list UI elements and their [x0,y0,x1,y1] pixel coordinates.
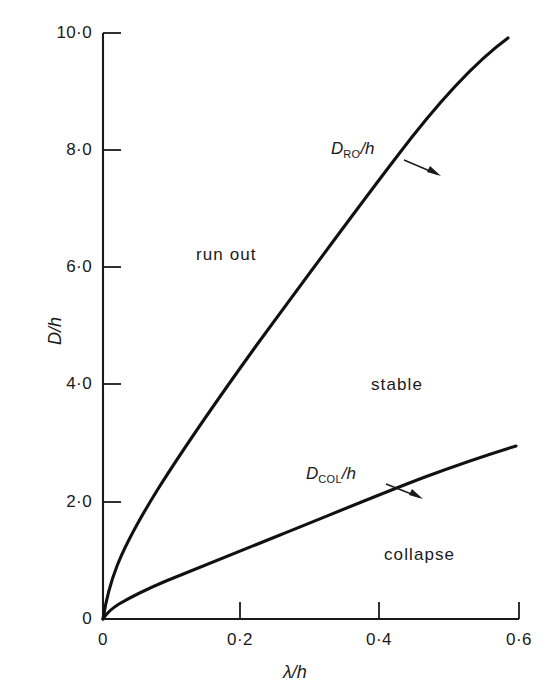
curve-label-d-ro-main: D [331,139,343,158]
leader-d-ro [404,160,441,176]
y-tick-label-8: 8·0 [20,140,92,160]
curve-label-d-ro-sub: RO [343,148,360,160]
y-axis-title: D/h [45,317,66,345]
x-tick-label-04: 0·4 [353,630,405,650]
y-axis-ticks [103,33,121,502]
y-tick-label-0: 0 [20,609,92,629]
curve-label-d-col: DCOL/h [306,464,356,485]
curve-d-ro [103,38,508,619]
x-tick-label-06: 0·6 [493,630,545,650]
curve-label-d-col-sub: COL [318,473,342,485]
y-tick-label-10: 10·0 [20,23,92,43]
curve-label-d-col-main: D [306,464,318,483]
region-label-collapse: collapse [384,545,455,565]
x-tick-label-02: 0·2 [214,630,266,650]
curve-label-d-ro: DRO/h [331,139,375,160]
region-label-run-out: run out [196,245,257,265]
region-label-stable: stable [371,375,423,395]
x-tick-label-0: 0 [82,630,124,650]
x-axis-ticks [240,602,519,619]
curve-label-d-col-tail: /h [342,464,356,483]
chart-canvas [0,0,552,697]
y-tick-label-6: 6·0 [20,257,92,277]
figure-container: 10·0 8·0 6·0 4·0 2·0 0 0 0·2 0·4 0·6 D/h… [0,0,552,697]
x-axis-title: λ/h [283,662,307,683]
curve-label-d-ro-tail: /h [360,139,374,158]
y-tick-label-2: 2·0 [20,492,92,512]
y-tick-label-4: 4·0 [20,374,92,394]
